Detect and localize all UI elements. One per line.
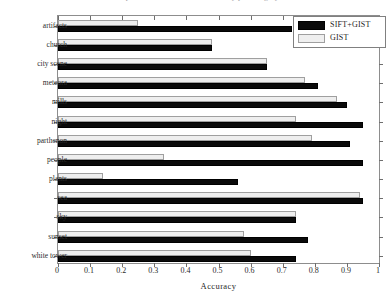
x-axis-tick-label: 0.1 — [74, 266, 104, 275]
y-axis-label-artifacts: artifacts — [0, 20, 67, 29]
legend-swatch-gist — [298, 34, 325, 43]
y-axis-label-city-scene: city scene — [0, 59, 67, 68]
x-axis-tick-label: 0 — [42, 266, 72, 275]
legend-swatch-sift — [298, 21, 325, 30]
legend-label: GIST — [330, 33, 349, 42]
x-axis-tick-labels: 00.10.20.30.40.50.60.70.80.91 — [57, 266, 380, 280]
legend-item: SIFT+GIST — [298, 20, 383, 31]
y-axis-label-mills: mills — [0, 97, 67, 106]
x-axis-tick-label: 0.7 — [267, 266, 297, 275]
y-axis-label-meteora: meteora — [0, 78, 67, 87]
y-axis-label-church: church — [0, 39, 67, 48]
bar-chart-figure: Comparison of classification accuracy pe… — [0, 0, 389, 300]
x-axis-tick-label: 0.9 — [331, 266, 361, 275]
x-axis-tick-label: 0.2 — [106, 266, 136, 275]
x-axis-tick-label: 0.5 — [203, 266, 233, 275]
y-axis-label-sea: sea — [0, 193, 67, 202]
legend-item: GIST — [298, 33, 383, 44]
y-axis-labels: artifactschurchcity scenemeteoramillsnig… — [57, 15, 380, 264]
y-axis-label-people: people — [0, 154, 67, 163]
legend-label: SIFT+GIST — [330, 20, 371, 29]
x-axis-title: Accuracy — [57, 281, 380, 291]
x-axis-tick-label: 0.4 — [170, 266, 200, 275]
x-axis-tick-label: 0.8 — [299, 266, 329, 275]
legend: SIFT+GISTGIST — [293, 16, 386, 48]
y-axis-label-plants: plants — [0, 174, 67, 183]
y-axis-label-white-tower: white tower — [0, 250, 67, 259]
y-axis-label-sunset: sunset — [0, 231, 67, 240]
x-axis-tick-label: 1 — [363, 266, 389, 275]
x-axis-tick-label: 0.3 — [138, 266, 168, 275]
chart-title: Comparison of classification accuracy pe… — [0, 0, 389, 1]
y-axis-label-night: night — [0, 116, 67, 125]
x-axis-tick-label: 0.6 — [235, 266, 265, 275]
y-axis-label-parthenon: parthenon — [0, 135, 67, 144]
y-axis-label-sky: sky — [0, 212, 67, 221]
chart-title-clipped: Comparison of classification accuracy pe… — [0, 0, 389, 9]
